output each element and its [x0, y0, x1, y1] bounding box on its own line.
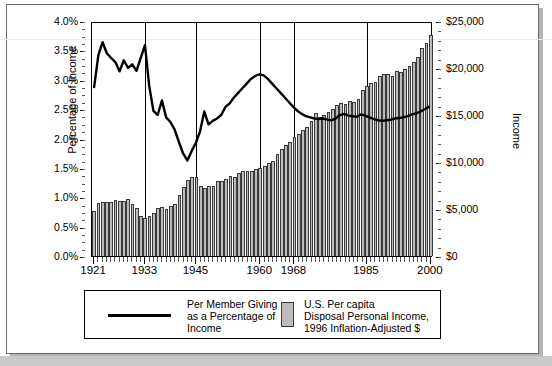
- left-axis-minor-tick: [82, 228, 85, 229]
- left-axis-minor-tick: [82, 29, 85, 30]
- right-axis-minor-tick: [438, 22, 441, 23]
- left-axis-minor-tick: [82, 59, 85, 60]
- bottom-band: [0, 356, 552, 366]
- left-axis-minor-tick: [82, 117, 85, 118]
- x-axis-tick: [110, 257, 111, 262]
- left-axis-minor-tick: [82, 22, 85, 23]
- x-axis-tick: [315, 257, 316, 262]
- x-axis-tick: [336, 257, 337, 262]
- x-axis-tick: [208, 257, 209, 262]
- x-axis-labels: 1921193319451960196819852000: [40, 264, 510, 280]
- left-axis-tick-label: 1.0%: [54, 191, 78, 203]
- x-axis-tick: [106, 257, 107, 262]
- x-axis-tick: [370, 257, 371, 262]
- x-axis-tick: [268, 257, 269, 262]
- x-axis-tick: [379, 257, 380, 262]
- legend-bar-swatch: [281, 302, 294, 327]
- x-axis-tick: [345, 257, 346, 262]
- x-axis-tick: [127, 257, 128, 262]
- x-axis-tick: [281, 257, 282, 262]
- right-axis-title: Income: [511, 76, 523, 186]
- x-axis-tick: [366, 257, 367, 264]
- x-axis-tick: [413, 257, 414, 262]
- legend-line-swatch: [108, 314, 171, 317]
- x-axis-tick: [119, 257, 120, 262]
- left-axis-minor-tick: [82, 95, 85, 96]
- left-axis-minor-tick: [82, 250, 85, 251]
- right-axis-minor-tick: [438, 41, 441, 42]
- x-axis-tick: [259, 257, 260, 264]
- right-axis-minor-tick: [438, 60, 441, 61]
- x-axis-tick: [289, 257, 290, 262]
- x-axis-tick: [255, 257, 256, 262]
- right-axis-minor-tick: [438, 229, 441, 230]
- left-axis-minor-tick: [82, 44, 85, 45]
- x-axis-tick: [191, 257, 192, 262]
- right-axis-tick-label: $0: [446, 250, 458, 262]
- x-axis-tick: [97, 257, 98, 262]
- x-axis-tick: [93, 257, 94, 264]
- x-axis-tick: [298, 257, 299, 262]
- right-axis-minor-tick: [438, 238, 441, 239]
- plot-area: [91, 22, 432, 257]
- right-axis: $0$5,000$10,000$15,000$20,000$25,000: [436, 22, 498, 257]
- left-axis-minor-tick: [82, 154, 85, 155]
- x-axis-tick: [153, 257, 154, 262]
- x-axis-tick: [387, 257, 388, 262]
- x-axis-tick: [353, 257, 354, 262]
- x-axis-tick: [136, 257, 137, 262]
- x-axis-tick: [149, 257, 150, 262]
- x-axis-tick: [430, 257, 431, 264]
- left-axis-minor-tick: [82, 220, 85, 221]
- right-axis-minor-tick: [438, 210, 441, 211]
- right-axis-minor-tick: [438, 69, 441, 70]
- right-axis-minor-tick: [438, 97, 441, 98]
- x-axis-label-1985: 1985: [344, 264, 388, 276]
- right-axis-minor-tick: [438, 163, 441, 164]
- left-axis-minor-tick: [82, 140, 85, 141]
- right-axis-minor-tick: [438, 50, 441, 51]
- x-axis-tick: [187, 257, 188, 262]
- x-axis-tick: [200, 257, 201, 262]
- right-axis-minor-tick: [438, 144, 441, 145]
- x-axis-tick: [328, 257, 329, 262]
- legend-bar-label-line: Disposal Personal Income,: [304, 311, 429, 323]
- x-axis-tick: [409, 257, 410, 262]
- left-axis-minor-tick: [82, 37, 85, 38]
- right-axis-minor-tick: [438, 107, 441, 108]
- x-axis-tick: [285, 257, 286, 262]
- right-axis-minor-tick: [438, 31, 441, 32]
- x-axis-tick: [396, 257, 397, 262]
- x-axis-tick: [170, 257, 171, 262]
- x-axis-tick: [417, 257, 418, 262]
- right-axis-minor-tick: [438, 219, 441, 220]
- left-axis-minor-tick: [82, 257, 85, 258]
- x-axis-tick: [340, 257, 341, 262]
- x-axis-tick: [234, 257, 235, 262]
- left-axis-minor-tick: [82, 147, 85, 148]
- x-axis-tick: [426, 257, 427, 262]
- legend-line-label-line: Income: [187, 323, 277, 335]
- x-axis-tick: [357, 257, 358, 262]
- x-axis-label-1968: 1968: [271, 264, 315, 276]
- x-axis-tick: [404, 257, 405, 262]
- right-axis-tick-label: $10,000: [446, 156, 484, 168]
- left-axis-minor-tick: [82, 125, 85, 126]
- x-axis-tick: [123, 257, 124, 262]
- right-axis-minor-tick: [438, 191, 441, 192]
- right-axis-minor-tick: [438, 248, 441, 249]
- x-axis-tick: [374, 257, 375, 262]
- x-axis-tick: [195, 257, 196, 264]
- legend: Per Member Givingas a Percentage ofIncom…: [84, 290, 441, 339]
- left-axis-minor-tick: [82, 191, 85, 192]
- right-axis-minor-tick: [438, 201, 441, 202]
- left-axis-minor-tick: [82, 206, 85, 207]
- left-axis-minor-tick: [82, 110, 85, 111]
- x-axis-tick: [183, 257, 184, 262]
- x-axis-tick: [102, 257, 103, 262]
- x-axis-tick: [131, 257, 132, 262]
- x-axis-tick: [319, 257, 320, 262]
- x-axis-tick: [238, 257, 239, 262]
- x-axis-label-1933: 1933: [122, 264, 166, 276]
- left-axis-minor-tick: [82, 213, 85, 214]
